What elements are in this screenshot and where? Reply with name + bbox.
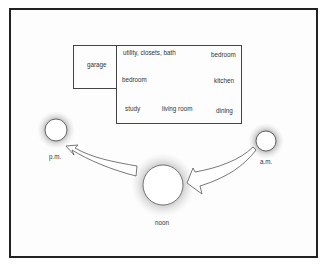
room-label-dining: dining bbox=[216, 108, 233, 114]
room-label-living-room: living room bbox=[162, 106, 192, 112]
room-label-bedroom-w: bedroom bbox=[122, 77, 147, 83]
garage-label: garage bbox=[87, 62, 107, 68]
room-label-utility: utility, closets, bath bbox=[123, 50, 176, 56]
sun-pm-icon bbox=[37, 111, 75, 149]
sun-label-noon: noon bbox=[155, 220, 169, 226]
room-label-kitchen: kitchen bbox=[214, 78, 234, 84]
sun-label-pm: p.m. bbox=[49, 154, 61, 160]
arrow-noon-to-pm-icon bbox=[66, 145, 137, 176]
arrow-am-to-noon-icon bbox=[187, 147, 256, 194]
sun-noon-icon bbox=[131, 153, 195, 217]
sun-path-artwork bbox=[0, 0, 324, 268]
room-label-study: study bbox=[125, 106, 140, 112]
room-label-bedroom-ne: bedroom bbox=[211, 52, 236, 58]
sun-label-am: a.m. bbox=[260, 159, 272, 165]
